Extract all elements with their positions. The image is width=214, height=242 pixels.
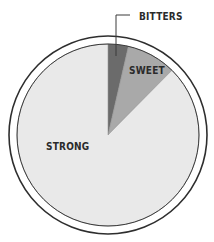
label-sweet: SWEET <box>129 65 166 76</box>
pie-chart: BITTERS SWEET STRONG <box>0 0 214 242</box>
slice-strong <box>17 44 199 226</box>
pie-slices <box>17 44 199 226</box>
label-strong: STRONG <box>46 141 89 152</box>
label-bitters: BITTERS <box>139 11 183 22</box>
